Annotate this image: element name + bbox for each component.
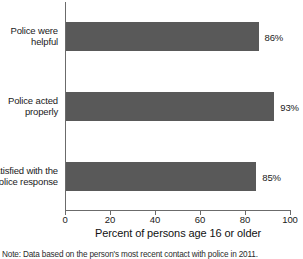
x-tick-label-60: 60 bbox=[195, 214, 205, 225]
plot-area: 86% 93% 85% bbox=[65, 2, 290, 210]
chart-footnote: Note: Data based on the person's most re… bbox=[2, 250, 301, 259]
y-axis-line bbox=[65, 2, 66, 211]
x-tick-label-100: 100 bbox=[282, 214, 298, 225]
category-label-1: Police acted properly bbox=[8, 96, 58, 117]
bar-chart-figure: Police were helpful Police acted properl… bbox=[0, 0, 303, 259]
category-label-2: Satisfied with the police response bbox=[0, 166, 58, 187]
bar-row-1: 93% bbox=[65, 92, 290, 121]
x-axis-line bbox=[65, 210, 291, 211]
bar-row-2: 85% bbox=[65, 162, 290, 191]
bar-value-label-1: 93% bbox=[280, 101, 299, 112]
category-label-2-line-0: Satisfied with the bbox=[0, 166, 58, 177]
category-label-1-line-0: Police acted bbox=[8, 96, 58, 107]
category-label-0-line-0: Police were bbox=[11, 26, 58, 37]
x-axis-title: Percent of persons age 16 or older bbox=[65, 227, 291, 239]
bar-satisfied-with-police-response bbox=[65, 162, 256, 191]
bar-value-label-2: 85% bbox=[262, 171, 281, 182]
category-label-0: Police were helpful bbox=[11, 26, 58, 47]
x-tick-label-40: 40 bbox=[150, 214, 160, 225]
bar-police-were-helpful bbox=[65, 22, 259, 51]
x-tick-label-80: 80 bbox=[240, 214, 250, 225]
x-tick-label-0: 0 bbox=[62, 214, 67, 225]
category-label-1-line-1: properly bbox=[8, 107, 58, 118]
category-label-0-line-1: helpful bbox=[11, 37, 58, 48]
x-tick-label-20: 20 bbox=[105, 214, 115, 225]
bar-value-label-0: 86% bbox=[265, 31, 284, 42]
bar-police-acted-properly bbox=[65, 92, 274, 121]
bar-row-0: 86% bbox=[65, 22, 290, 51]
category-label-2-line-1: police response bbox=[0, 177, 58, 188]
